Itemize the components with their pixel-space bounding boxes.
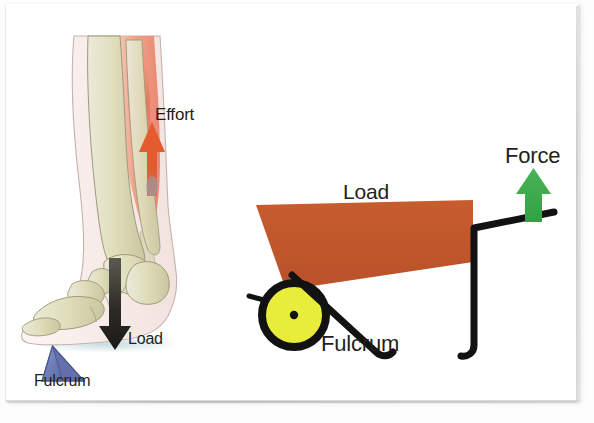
diagram-canvas: Effort Load Fulcrum Load Fulcrum Force: [0, 0, 594, 423]
barrow-fulcrum-label: Fulcrum: [321, 331, 399, 357]
barrow-load-label: Load: [343, 180, 389, 204]
effort-label: Effort: [155, 105, 194, 125]
barrow-tray: [256, 200, 473, 290]
wheel-hub-icon: [290, 311, 298, 319]
foot-load-label: Load: [128, 330, 163, 348]
foot-fulcrum-label: Fulcrum: [34, 372, 90, 390]
barrow-force-label: Force: [505, 143, 560, 169]
wheelbarrow-lever-illustration: [0, 0, 594, 423]
barrow-handle: [461, 212, 554, 356]
